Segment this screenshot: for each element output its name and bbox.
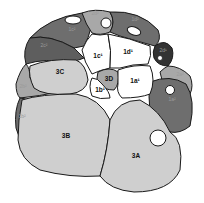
- embryo-diagram: 3C 3B 3A 3D 1c¹ 1d¹ 1b¹ 1a¹ 1c² 2c² 2d² …: [0, 0, 204, 203]
- label-right-large-dark: 1a²: [168, 96, 176, 102]
- cell-3C: [30, 60, 89, 95]
- label-top-center: 2d²: [91, 10, 99, 16]
- label-3B: 3B: [62, 132, 71, 139]
- label-1d1: 1d¹: [123, 48, 133, 55]
- nucleus-right-dark-small: [158, 56, 163, 61]
- label-3A: 3A: [132, 152, 141, 159]
- label-1c1: 1c¹: [93, 52, 102, 59]
- label-top-left-upper: 1c²: [69, 26, 76, 32]
- label-right-mid: 2a²: [176, 71, 184, 77]
- label-left-mid: 2b²: [19, 83, 27, 89]
- cell-right-dark-small: [153, 42, 173, 66]
- label-top-left-dark: 2c²: [41, 42, 48, 48]
- nucleus-right-large: [166, 86, 175, 95]
- label-1b1: 1b¹: [95, 86, 105, 93]
- label-top-right: 1d²: [131, 16, 139, 22]
- label-3C: 3C: [56, 68, 65, 75]
- label-right-dark-small: 2d¹: [159, 47, 167, 53]
- label-left-lower-dark: 1b²: [18, 113, 26, 119]
- nucleus-top-left: [65, 16, 81, 24]
- label-1a1: 1a¹: [130, 77, 139, 84]
- nucleus-3A: [150, 130, 166, 146]
- label-3D: 3D: [105, 75, 114, 82]
- nucleus-top-center: [101, 18, 111, 28]
